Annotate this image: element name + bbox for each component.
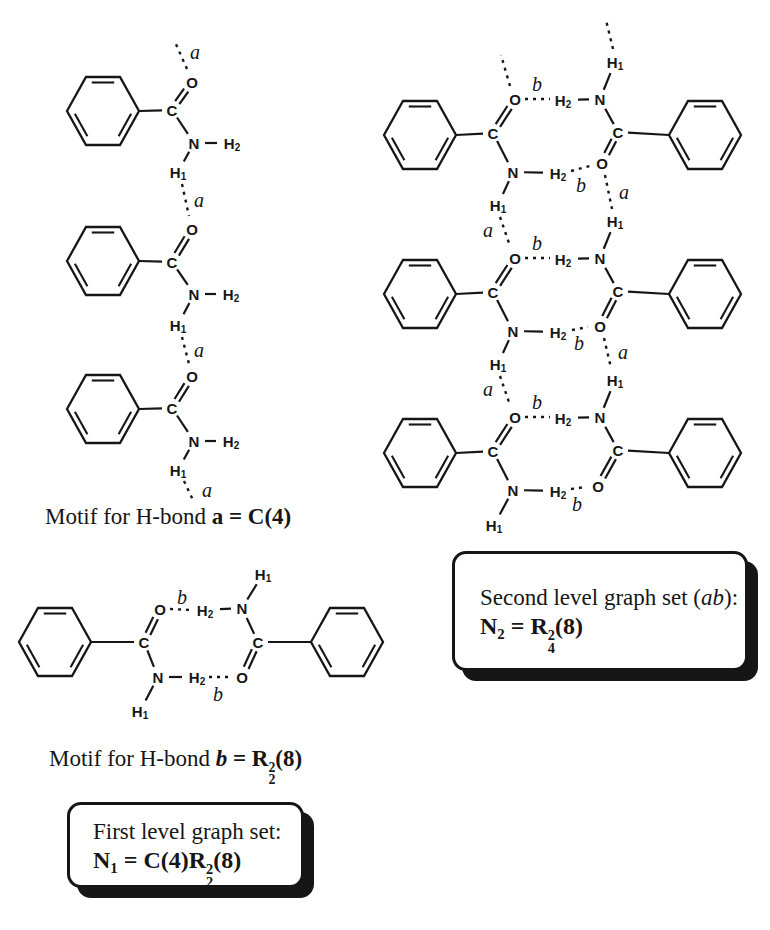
figure-benzamide-graph-sets: CONH2H1CONH2H1CONH2H1CONH2H1CONH2H1CONH2… [0,0,770,930]
text-run: ): [724,585,738,610]
amide-h1-label: H1 [255,566,272,584]
nitrogen-label: N [189,135,200,152]
hydrogen-bond [606,20,613,49]
text-run: a [212,504,224,529]
nitrogen-label: N [508,164,519,181]
oxygen-label: O [509,91,521,108]
hydrogen-bond-a: a [182,337,204,364]
text-run: Motif for H-bond [49,746,216,771]
text-run: 2 [497,626,504,642]
hydrogen-bond-b: b [571,166,590,196]
amide-h1-label: H1 [607,213,624,231]
benzamide-ladder-right-3: CONH2H1 [555,372,741,495]
hbond-label-a: a [618,341,628,363]
oxygen-label: O [592,478,604,495]
benzamide-ladder-right-1: CONH2H1 [555,54,741,172]
second-level-graph-set-box: Second level graph set (ab): N2 = R24(8) [452,551,748,671]
nitrogen-label: N [595,409,606,426]
hydrogen-bond-a: a [483,376,510,405]
first-level-graph-set-text: First level graph set: N1 = C(4)R22(8) [70,805,301,885]
hydrogen-bond-a: a [182,184,204,216]
amide-h1-label: H1 [607,372,624,390]
text-run: = C(4) [223,504,291,529]
carbon-label: C [613,442,624,459]
hydrogen-bond-a: a [184,479,212,501]
text-run: = C(4)R [118,847,206,873]
hbond-label-a: a [202,479,212,501]
text-run: = R [227,746,268,771]
benzamide-chain-2: CONH2H1 [67,221,240,335]
amide-h2-label: H2 [555,92,572,110]
first-level-line1: First level graph set: [93,819,301,845]
oxygen-label: O [509,250,521,267]
nitrogen-label: N [595,250,606,267]
amide-h1-label: H1 [170,462,187,480]
benzamide-ladder-left-3: CONH2H1 [384,409,567,535]
hydrogen-bond-a: a [604,338,628,368]
stacked-digit: 4 [548,642,555,655]
amide-h2-label: H2 [550,165,567,183]
structure-canvas: CONH2H1CONH2H1CONH2H1CONH2H1CONH2H1CONH2… [0,0,770,930]
stacked-digit: 2 [268,774,275,787]
first-level-formula: N1 = C(4)R22(8) [93,847,301,890]
amide-h2-label: H2 [550,483,567,501]
hbond-label-b: b [532,391,542,413]
hydrogen-bond-b: b [525,73,550,99]
stacked-digit: 2 [206,876,213,889]
hbond-label-a: a [190,41,200,63]
carbon-label: C [488,125,499,142]
carbon-label: C [613,124,624,141]
amide-h2-label: H2 [550,324,567,342]
hbond-label-a: a [483,219,493,241]
second-level-formula: N2 = R24(8) [480,613,745,656]
carbon-label: C [253,634,264,651]
second-level-graph-set-text: Second level graph set (ab): N2 = R24(8) [455,554,745,668]
benzamide-ladder-left-1: CONH2H1 [384,91,567,215]
amide-h1-label: H1 [490,356,507,374]
carbon-label: C [488,284,499,301]
text-run: 24 [548,629,555,656]
text-run: Motif for H-bond [45,504,212,529]
nitrogen-label: N [153,669,164,686]
hbond-label-b: b [532,73,542,95]
carbon-label: C [139,634,150,651]
amide-h2-label: H2 [555,410,572,428]
benzamide-dimer-right: CONH2H1 [197,566,383,686]
hbond-label-b: b [532,232,542,254]
hydrogen-bond [501,55,510,86]
text-run: = R [505,613,548,639]
amide-h1-label: H1 [170,317,187,335]
nitrogen-label: N [595,91,606,108]
text-run: b [216,746,228,771]
hydrogen-bond-b: b [572,327,588,354]
caption-motif-b: Motif for H-bond b = R22(8) [49,746,302,787]
amide-h2-label: H2 [197,602,214,620]
text-run: ab [701,585,724,610]
oxygen-label: O [596,155,608,172]
hydrogen-bond-b: b [209,677,230,705]
amide-h1-label: H1 [607,54,624,72]
oxygen-label: O [509,409,521,426]
carbon-label: C [613,283,624,300]
hbond-label-a: a [619,181,629,203]
oxygen-label: O [154,601,166,618]
oxygen-label: O [236,669,248,686]
carbon-label: C [167,254,178,271]
carbon-label: C [488,443,499,460]
amide-h2-label: H2 [189,669,206,687]
hbond-label-b: b [576,174,586,196]
oxygen-label: O [594,318,606,335]
first-level-graph-set-box: First level graph set: N1 = C(4)R22(8) [67,802,304,888]
nitrogen-label: N [189,286,200,303]
benzamide-ladder-right-2: CONH2H1 [555,213,741,335]
amide-h2-label: H2 [555,251,572,269]
text-run: 1 [110,860,117,876]
text-run: (8) [275,746,302,771]
hbond-label-b: b [572,493,582,515]
hydrogen-bond-b: b [525,232,550,258]
text-run: N [480,613,497,639]
hbond-label-b: b [574,332,584,354]
nitrogen-label: N [508,323,519,340]
caption-motif-a: Motif for H-bond a = C(4) [45,504,291,530]
hydrogen-bond-b: b [170,586,192,610]
